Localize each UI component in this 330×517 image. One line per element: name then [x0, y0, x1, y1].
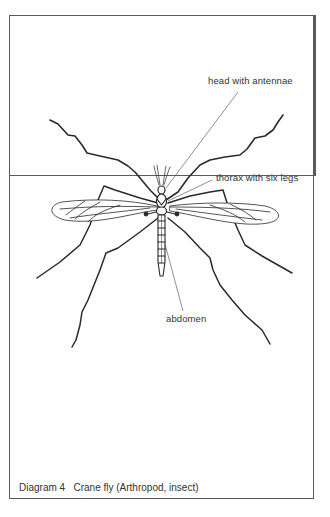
diagram-frame-full [9, 15, 314, 499]
figure-caption: Diagram 4 Crane fly (Arthropod, insect) [19, 482, 199, 493]
